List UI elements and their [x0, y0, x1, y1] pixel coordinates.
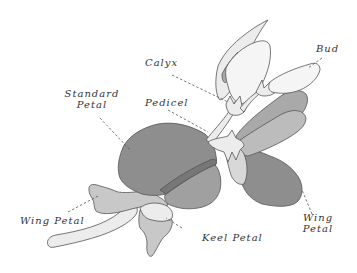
label-keel-petal: Keel Petal — [202, 232, 263, 243]
bud-shape — [269, 63, 320, 93]
wing-petal-right-shape — [239, 148, 302, 206]
leader-wing-petal-right — [302, 190, 312, 214]
label-standard-petal-line2: Petal — [62, 99, 122, 110]
label-standard-petal: Standard Petal — [62, 88, 122, 110]
label-wing-petal-right-line1: Wing — [296, 212, 340, 223]
label-wing-petal-right-line2: Petal — [296, 223, 340, 234]
label-wing-petal-left: Wing Petal — [20, 215, 85, 226]
leader-wing-petal-left — [68, 196, 98, 212]
leader-standard-petal — [100, 118, 130, 150]
label-wing-petal-right: Wing Petal — [296, 212, 340, 234]
label-standard-petal-line1: Standard — [62, 88, 122, 99]
label-calyx: Calyx — [145, 57, 178, 68]
label-bud: Bud — [316, 43, 339, 54]
label-pedicel: Pedicel — [145, 97, 189, 108]
